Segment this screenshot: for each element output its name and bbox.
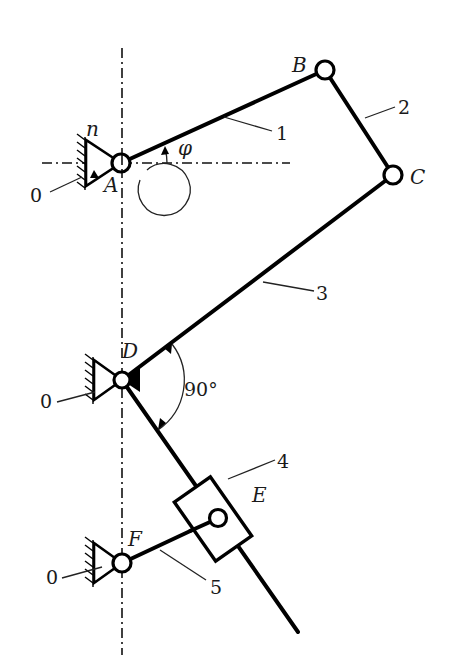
label-point-a: A — [102, 173, 118, 197]
label-link-5: 5 — [210, 576, 222, 598]
linkage-diagram: A B C D E F 1 2 3 4 5 0 0 0 φ n 90° — [0, 0, 456, 658]
joint-c — [384, 166, 402, 184]
link-1-ab — [121, 70, 325, 163]
joint-a — [112, 154, 130, 172]
leader-5 — [160, 550, 206, 580]
label-right-angle: 90° — [184, 378, 218, 400]
joint-d — [114, 372, 130, 388]
label-angle-phi: φ — [178, 136, 192, 160]
leader-1 — [224, 117, 272, 131]
label-point-d: D — [121, 339, 138, 363]
rotation-arc-n — [138, 163, 190, 215]
label-link-4: 4 — [277, 450, 289, 472]
leader-ground-a — [50, 177, 82, 192]
label-link-2: 2 — [398, 96, 410, 118]
label-link-3: 3 — [316, 282, 328, 304]
leader-3 — [263, 282, 314, 291]
label-ground-d: 0 — [40, 390, 52, 412]
right-angle-arrowhead-bottom — [158, 418, 166, 430]
link-3-cd — [122, 175, 393, 380]
label-point-f: F — [127, 527, 143, 551]
label-speed-n: n — [86, 117, 99, 141]
link-2-bc — [325, 70, 393, 175]
label-point-c: C — [410, 165, 425, 189]
label-point-b: B — [291, 53, 307, 77]
joint-e — [210, 510, 227, 527]
label-ground-a: 0 — [30, 184, 42, 206]
joint-b — [316, 61, 334, 79]
label-link-1: 1 — [276, 122, 288, 144]
label-ground-f: 0 — [46, 566, 58, 588]
joint-f — [113, 554, 131, 572]
right-angle-arc — [158, 344, 184, 430]
leader-4 — [228, 460, 275, 479]
label-point-e: E — [251, 483, 267, 507]
angle-phi-arrowhead — [161, 146, 169, 155]
leader-2 — [365, 107, 395, 118]
